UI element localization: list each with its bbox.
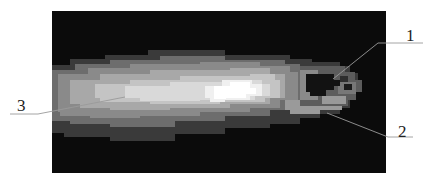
callout-label-2: 2	[398, 123, 407, 140]
thermal-image-figure	[0, 0, 437, 178]
callout-label-1: 1	[406, 27, 415, 44]
figure: 1 2 3	[0, 0, 437, 178]
callout-label-3: 3	[17, 97, 26, 114]
